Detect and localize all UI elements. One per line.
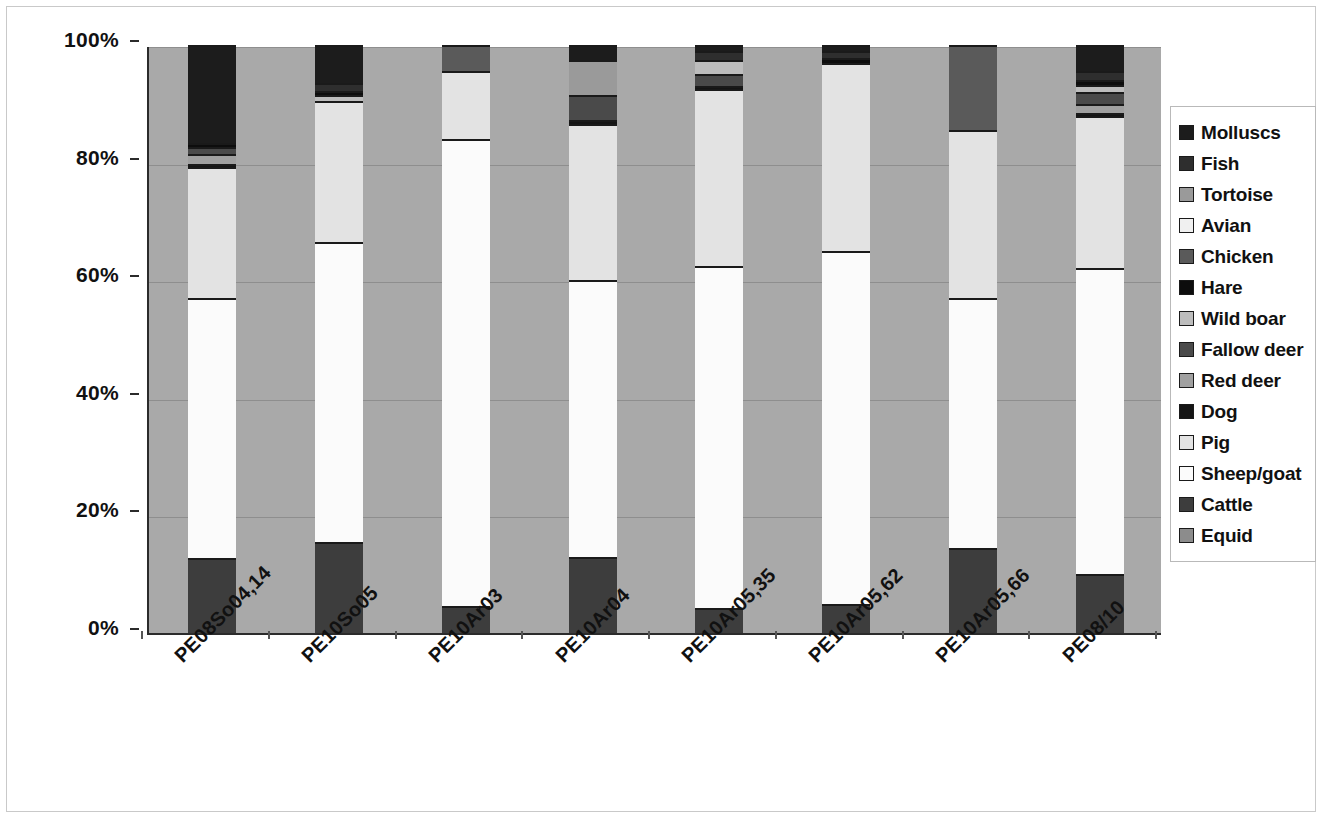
bar-PE10Ar05,35[interactable] bbox=[695, 45, 743, 633]
legend-item-hare[interactable]: Hare bbox=[1179, 272, 1309, 303]
bar-segment-fallow-deer[interactable] bbox=[188, 147, 236, 155]
legend-swatch-icon bbox=[1179, 218, 1194, 233]
legend-item-red-deer[interactable]: Red deer bbox=[1179, 365, 1309, 396]
legend-item-avian[interactable]: Avian bbox=[1179, 210, 1309, 241]
x-axis-tick-mark bbox=[1028, 631, 1030, 639]
bar-segment-sheep-goat[interactable] bbox=[949, 298, 997, 548]
bar-segment-dog[interactable] bbox=[1076, 113, 1124, 116]
legend-item-tortoise[interactable]: Tortoise bbox=[1179, 179, 1309, 210]
legend-item-dog[interactable]: Dog bbox=[1179, 396, 1309, 427]
bar-segment-chicken[interactable] bbox=[442, 45, 490, 71]
legend-item-fallow-deer[interactable]: Fallow deer bbox=[1179, 334, 1309, 365]
bar-segment-sheep-goat[interactable] bbox=[695, 266, 743, 609]
bar-segment-molluscs[interactable] bbox=[1076, 45, 1124, 71]
legend-item-cattle[interactable]: Cattle bbox=[1179, 489, 1309, 520]
bar-PE10Ar05,66[interactable] bbox=[949, 45, 997, 633]
bar-segment-sheep-goat[interactable] bbox=[1076, 268, 1124, 574]
bar-segment-sheep-goat[interactable] bbox=[822, 251, 870, 604]
legend-item-label: Cattle bbox=[1201, 494, 1253, 516]
bar-segment-pig[interactable] bbox=[315, 101, 363, 242]
bar-segment-sheep-goat[interactable] bbox=[442, 139, 490, 606]
bar-segment-pig[interactable] bbox=[569, 124, 617, 280]
gridline bbox=[149, 165, 1161, 166]
legend-item-label: Wild boar bbox=[1201, 308, 1286, 330]
bar-segment-sheep-goat[interactable] bbox=[188, 298, 236, 558]
bar-segment-pig[interactable] bbox=[188, 167, 236, 298]
legend-swatch-icon bbox=[1179, 125, 1194, 140]
bar-segment-pig[interactable] bbox=[695, 89, 743, 265]
bar-segment-molluscs[interactable] bbox=[695, 45, 743, 51]
y-axis-tick-label: 0% bbox=[7, 616, 119, 640]
bar-segment-wild-boar[interactable] bbox=[1076, 85, 1124, 92]
y-axis-tick-mark bbox=[130, 628, 139, 630]
plot-area bbox=[147, 47, 1161, 635]
bar-PE10Ar05,62[interactable] bbox=[822, 45, 870, 633]
gridline bbox=[149, 400, 1161, 401]
bar-PE08So04,14[interactable] bbox=[188, 45, 236, 633]
bar-segment-fish[interactable] bbox=[315, 83, 363, 91]
bar-PE10Ar03[interactable] bbox=[442, 45, 490, 633]
chart-screenshot: 0%20%40%60%80%100% PE08So04,14PE10So05PE… bbox=[0, 0, 1324, 821]
legend-item-chicken[interactable]: Chicken bbox=[1179, 241, 1309, 272]
bar-segment-molluscs[interactable] bbox=[188, 45, 236, 143]
bar-segment-molluscs[interactable] bbox=[569, 45, 617, 60]
y-axis-tick-mark bbox=[130, 158, 139, 160]
legend-swatch-icon bbox=[1179, 404, 1194, 419]
bar-segment-sheep-goat[interactable] bbox=[569, 280, 617, 556]
bar-segment-hare[interactable] bbox=[822, 58, 870, 63]
legend-swatch-icon bbox=[1179, 311, 1194, 326]
legend-item-label: Fallow deer bbox=[1201, 339, 1303, 361]
bar-segment-tortoise[interactable] bbox=[569, 60, 617, 95]
legend-item-fish[interactable]: Fish bbox=[1179, 148, 1309, 179]
bar-PE08/10[interactable] bbox=[1076, 45, 1124, 633]
bar-segment-pig[interactable] bbox=[949, 130, 997, 298]
bar-segment-molluscs[interactable] bbox=[315, 45, 363, 83]
bar-segment-fallow-deer[interactable] bbox=[695, 74, 743, 86]
bar-segment-red-deer[interactable] bbox=[188, 154, 236, 163]
bar-segment-red-deer[interactable] bbox=[1076, 104, 1124, 113]
legend-item-equid[interactable]: Equid bbox=[1179, 520, 1309, 551]
legend-swatch-icon bbox=[1179, 528, 1194, 543]
legend-item-label: Red deer bbox=[1201, 370, 1281, 392]
bar-segment-fish[interactable] bbox=[695, 51, 743, 60]
bar-segment-fallow-deer[interactable] bbox=[569, 95, 617, 120]
bar-segment-wild-boar[interactable] bbox=[695, 60, 743, 75]
bar-segment-sheep-goat[interactable] bbox=[315, 242, 363, 542]
legend-item-molluscs[interactable]: Molluscs bbox=[1179, 117, 1309, 148]
bar-segment-fish[interactable] bbox=[1076, 71, 1124, 80]
bar-segment-dog[interactable] bbox=[188, 164, 236, 168]
legend-item-wild-boar[interactable]: Wild boar bbox=[1179, 303, 1309, 334]
legend-item-label: Chicken bbox=[1201, 246, 1274, 268]
bar-PE10Ar04[interactable] bbox=[569, 45, 617, 633]
legend-item-sheep-goat[interactable]: Sheep/goat bbox=[1179, 458, 1309, 489]
gridline bbox=[149, 47, 1161, 48]
bar-segment-hare[interactable] bbox=[315, 91, 363, 95]
legend-item-label: Pig bbox=[1201, 432, 1230, 454]
x-axis-tick-mark bbox=[521, 631, 523, 639]
bar-segment-dog[interactable] bbox=[695, 86, 743, 89]
legend-swatch-icon bbox=[1179, 187, 1194, 202]
bar-segment-fish[interactable] bbox=[822, 51, 870, 58]
bar-segment-molluscs[interactable] bbox=[822, 45, 870, 51]
bar-PE10So05[interactable] bbox=[315, 45, 363, 633]
x-axis-tick-mark bbox=[775, 631, 777, 639]
bar-segment-chicken[interactable] bbox=[949, 45, 997, 130]
bar-segment-dog[interactable] bbox=[569, 120, 617, 124]
legend-item-label: Equid bbox=[1201, 525, 1253, 547]
bar-segment-pig[interactable] bbox=[822, 63, 870, 251]
legend-item-label: Fish bbox=[1201, 153, 1239, 175]
bar-segment-hare[interactable] bbox=[1076, 80, 1124, 85]
bar-segment-wild-boar[interactable] bbox=[315, 95, 363, 101]
y-axis-tick-label: 100% bbox=[7, 28, 119, 52]
legend-item-pig[interactable]: Pig bbox=[1179, 427, 1309, 458]
bar-segment-fallow-deer[interactable] bbox=[1076, 92, 1124, 104]
bar-segment-pig[interactable] bbox=[442, 71, 490, 139]
y-axis-tick-label: 20% bbox=[7, 498, 119, 522]
legend-item-label: Molluscs bbox=[1201, 122, 1281, 144]
legend-swatch-icon bbox=[1179, 249, 1194, 264]
bar-segment-pig[interactable] bbox=[1076, 116, 1124, 269]
bar-segment-hare[interactable] bbox=[188, 143, 236, 147]
legend-item-label: Dog bbox=[1201, 401, 1237, 423]
y-axis-tick-mark bbox=[130, 40, 139, 42]
legend-swatch-icon bbox=[1179, 280, 1194, 295]
